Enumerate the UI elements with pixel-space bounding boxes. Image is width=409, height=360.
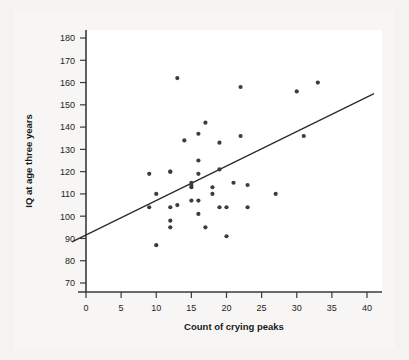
data-point [147, 205, 151, 209]
data-point [217, 141, 221, 145]
x-axis-label: Count of crying peaks [184, 321, 284, 332]
y-tick-label: 100 [60, 212, 75, 222]
x-tick-label: 40 [362, 303, 372, 313]
data-point [175, 76, 179, 80]
data-point [224, 234, 228, 238]
y-tick-label: 170 [60, 56, 75, 66]
data-point [168, 219, 172, 223]
data-point [196, 172, 200, 176]
x-tick-label: 20 [221, 303, 231, 313]
data-point [168, 170, 172, 174]
data-point [168, 225, 172, 229]
data-point [238, 85, 242, 89]
y-tick-label: 150 [60, 100, 75, 110]
y-tick-label: 80 [65, 256, 75, 266]
data-point [175, 203, 179, 207]
data-point [154, 243, 158, 247]
data-point [203, 121, 207, 125]
y-tick-label: 160 [60, 78, 75, 88]
data-point [316, 80, 320, 84]
figure-container: 708090100110120130140150160170180 051015… [0, 0, 409, 360]
data-point [182, 138, 186, 142]
data-point [196, 198, 200, 202]
data-point [274, 192, 278, 196]
data-point [210, 185, 214, 189]
data-point [189, 198, 193, 202]
y-tick-label: 110 [61, 189, 75, 199]
scatter-plot: 708090100110120130140150160170180 051015… [0, 0, 409, 360]
data-point [147, 172, 151, 176]
x-tick-label: 10 [151, 303, 161, 313]
x-tick-label: 35 [327, 303, 337, 313]
y-tick-label: 120 [60, 167, 75, 177]
data-point [245, 183, 249, 187]
x-tick-label: 5 [119, 303, 124, 313]
y-tick-label: 90 [65, 234, 75, 244]
data-point [238, 134, 242, 138]
data-point [196, 158, 200, 162]
y-tick-label: 180 [60, 33, 75, 43]
x-tick-label: 0 [83, 303, 88, 313]
data-point [224, 205, 228, 209]
data-point [210, 192, 214, 196]
data-point [217, 205, 221, 209]
data-point [189, 185, 193, 189]
x-tick-label: 25 [257, 303, 267, 313]
data-point [196, 132, 200, 136]
x-tick-label: 30 [292, 303, 302, 313]
y-tick-label: 70 [65, 278, 75, 288]
data-point [231, 181, 235, 185]
data-point [203, 225, 207, 229]
data-point [217, 167, 221, 171]
data-point [245, 205, 249, 209]
data-point [295, 89, 299, 93]
data-point [196, 212, 200, 216]
data-point [154, 192, 158, 196]
data-point [168, 205, 172, 209]
y-axis-ticks: 708090100110120130140150160170180 [60, 33, 86, 288]
x-tick-label: 15 [186, 303, 196, 313]
plot-area-background [86, 30, 382, 292]
y-tick-label: 130 [60, 145, 75, 155]
data-point [302, 134, 306, 138]
y-tick-label: 140 [60, 122, 75, 132]
y-axis-label: IQ at age three years [23, 114, 34, 207]
x-axis-ticks: 0510152025303540 [83, 292, 372, 313]
